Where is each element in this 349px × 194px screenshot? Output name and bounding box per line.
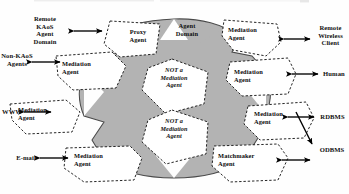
node-label-mediation-agent-6: Mediation Agent <box>74 152 122 168</box>
node-label-agent-domain: Agent Domain <box>166 22 208 38</box>
node-label-mediation-agent-4: Mediation Agent <box>18 106 66 122</box>
external-label-human: Human <box>319 70 349 78</box>
diagram-canvas: Remote KAoS Agent Domain Non-KAoS Agents… <box>0 0 349 194</box>
external-label-rdbms: RDBMS <box>316 113 349 121</box>
node-label-not-mediation-1: NOT a Mediation Agent <box>146 66 202 89</box>
external-label-remote-wireless-client: Remote Wireless Client <box>312 24 349 47</box>
node-label-mediation-agent-1: Mediation Agent <box>228 26 276 42</box>
external-label-e-mail: E-mail <box>12 154 40 162</box>
node-label-mediation-agent-5: Mediation Agent <box>254 110 302 126</box>
external-label-remote-kaos-agent-domain: Remote KAoS Agent Domain <box>18 15 72 45</box>
external-label-odbms: ODBMS <box>315 146 349 154</box>
node-label-matchmaker-agent: Matchmaker Agent <box>218 152 276 168</box>
node-label-proxy-agent: Proxy Agent <box>118 28 158 44</box>
external-label-non-kaos-agents: Non-KAoS Agents <box>0 52 34 67</box>
node-label-mediation-agent-3: Mediation Agent <box>234 68 282 84</box>
node-label-not-mediation-2: NOT a Mediation Agent <box>146 117 202 140</box>
node-label-mediation-agent-2: Mediation Agent <box>62 60 110 76</box>
